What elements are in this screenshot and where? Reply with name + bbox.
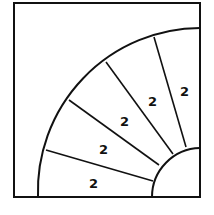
diagram-canvas: 2 2 2 2 2	[0, 0, 214, 215]
sector-label-5: 2	[180, 84, 189, 99]
sector-label-3: 2	[120, 114, 129, 129]
sector-label-1: 2	[89, 176, 98, 191]
sector-label-4: 2	[148, 94, 157, 109]
inner-arc	[152, 148, 200, 197]
sector-label-2: 2	[99, 142, 108, 157]
spoke-2	[69, 100, 159, 165]
spoke-3	[106, 62, 173, 154]
